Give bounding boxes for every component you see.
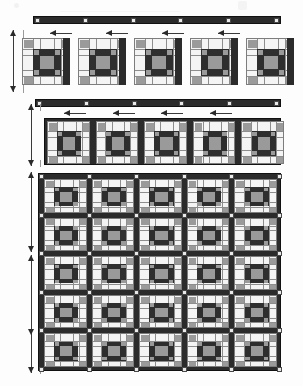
patch-inner-accent-gray [102, 318, 107, 322]
patch-inner-accent-gray [73, 280, 78, 284]
patch-corner-gray [136, 40, 144, 48]
patch-corner-gray [236, 284, 243, 290]
patch-center-gray [251, 192, 263, 202]
patch-corner-gray [269, 258, 276, 264]
cornerstone [39, 174, 44, 179]
patch-corner-gray [269, 245, 276, 251]
patch-inner-accent-gray [90, 50, 95, 55]
patch-corner-gray [174, 297, 181, 303]
cornerstone [134, 213, 139, 218]
patch-center-gray [60, 346, 72, 356]
patch-inner-accent-gray [252, 132, 257, 137]
patch-corner-gray [79, 335, 86, 341]
patch-center-gray [108, 192, 120, 202]
patch-inner-accent-gray [216, 342, 221, 346]
cornerstone [277, 290, 282, 295]
patch-center-gray [155, 231, 167, 241]
patch-center-gray [60, 308, 72, 318]
arrow-head-left-icon [50, 30, 56, 36]
patch-corner-gray [174, 361, 181, 367]
patch-inner-accent-gray [55, 241, 60, 245]
seam-direction-arrow [210, 110, 232, 117]
patch-inner-accent-gray [169, 357, 174, 361]
patch-inner-accent-gray [216, 303, 221, 307]
quilt-block-joined-4 [193, 121, 236, 164]
patch-inner-accent-gray [150, 318, 155, 322]
patch-center-gray [60, 269, 72, 279]
patch-center-gray [96, 56, 110, 69]
patch-inner-accent-gray [245, 202, 250, 206]
quilt-block-joined-3 [144, 121, 187, 164]
patch-inner-accent-gray [169, 188, 174, 192]
patch-inner-accent-gray [55, 202, 60, 206]
cornerstone [226, 18, 231, 23]
patch-corner-gray [79, 361, 86, 367]
quilt-block-joined-2 [96, 121, 139, 164]
patch-corner-gray [269, 207, 276, 213]
patch-center-gray [258, 137, 270, 149]
measure-tick [23, 85, 24, 93]
patch-inner-accent-gray [102, 188, 107, 192]
patch-inner-accent-gray [258, 70, 263, 75]
quilt-block-grid-r1-c2 [92, 179, 135, 213]
patch-inner-accent-gray [150, 202, 155, 206]
patch-inner-accent-gray [73, 265, 78, 269]
seam-line-horizontal [48, 156, 90, 157]
patch-corner-gray [46, 219, 53, 225]
patch-corner-gray [127, 284, 134, 290]
seam-line-vertical [61, 39, 62, 85]
row-height-measure-arrow-middle [28, 104, 35, 166]
patch-corner-gray [174, 335, 181, 341]
patch-corner-gray [127, 335, 134, 341]
patch-inner-accent-gray [245, 318, 250, 322]
patch-inner-accent-gray [245, 226, 250, 230]
quilt-block-grid-r4-c1 [44, 295, 87, 329]
row-height-measure-arrow-grid-3 [28, 255, 35, 295]
patch-corner-gray [146, 156, 153, 164]
patch-corner-gray [236, 361, 243, 367]
patch-corner-gray [49, 156, 56, 164]
patch-inner-accent-gray [169, 265, 174, 269]
patch-inner-accent-gray [73, 226, 78, 230]
quilt-block-grid-r4-c2 [92, 295, 135, 329]
seam-direction-arrow [161, 110, 183, 117]
patch-inner-accent-gray [73, 303, 78, 307]
cornerstone [229, 174, 234, 179]
patch-inner-accent-gray [150, 188, 155, 192]
patch-corner-gray [195, 156, 202, 164]
patch-corner-gray [46, 181, 53, 187]
patch-center-gray [60, 192, 72, 202]
patch-inner-accent-gray [245, 188, 250, 192]
scan-artifact-speck [14, 3, 19, 8]
patch-corner-gray [127, 245, 134, 251]
cornerstone [182, 174, 187, 179]
patch-center-gray [203, 231, 215, 241]
patch-corner-gray [174, 207, 181, 213]
arrow-head-left-icon [64, 110, 70, 116]
patch-corner-gray [46, 361, 53, 367]
patch-inner-accent-gray [216, 241, 221, 245]
patch-corner-gray [248, 77, 256, 85]
patch-inner-accent-gray [279, 50, 284, 55]
patch-inner-accent-gray [102, 226, 107, 230]
row-height-measure-arrow-grid-4 [28, 295, 35, 335]
quilt-block-grid-r2-c3 [139, 218, 182, 252]
cornerstone [229, 251, 234, 256]
patch-inner-accent-gray [169, 303, 174, 307]
patch-inner-accent-gray [264, 303, 269, 307]
cornerstone [229, 328, 234, 333]
patch-inner-accent-gray [146, 70, 151, 75]
patch-center-gray [155, 192, 167, 202]
patch-corner-gray [269, 284, 276, 290]
patch-corner-gray [94, 335, 101, 341]
patch-corner-gray [276, 156, 283, 164]
patch-inner-accent-gray [73, 241, 78, 245]
patch-inner-accent-gray [271, 151, 276, 156]
patch-corner-gray [80, 77, 88, 85]
cornerstone [87, 174, 92, 179]
cornerstone [134, 251, 139, 256]
cornerstone [134, 328, 139, 333]
sashing-strip-second [35, 99, 281, 107]
patch-corner-gray [276, 123, 283, 131]
patch-center-gray [160, 137, 172, 149]
